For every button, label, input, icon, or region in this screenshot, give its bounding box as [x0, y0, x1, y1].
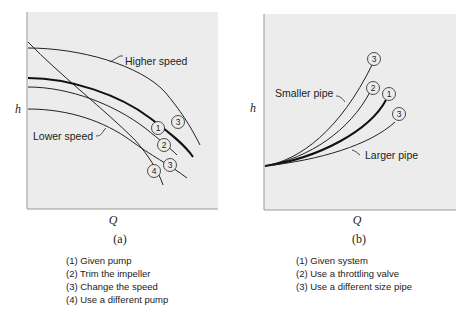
- panel-b-caption: (b): [352, 232, 366, 246]
- panel-b-x-label: Q: [353, 213, 362, 227]
- svg-text:3: 3: [372, 54, 377, 64]
- panel-a-caption: (a): [113, 232, 126, 246]
- marker-b-2: 2: [367, 82, 380, 95]
- legend-b-item: (2) Use a throttling valve: [296, 267, 412, 280]
- svg-text:3: 3: [168, 160, 173, 170]
- panel-a-y-label: h: [15, 102, 21, 116]
- marker-a-4: 4: [148, 165, 161, 178]
- legend-b-item: (3) Use a different size pipe: [296, 280, 412, 293]
- annotation-higher-speed: Higher speed: [125, 55, 188, 67]
- legend-a-item: (1) Given pump: [66, 254, 168, 267]
- panel-a-x-label: Q: [109, 213, 118, 227]
- panel-a-legend: (1) Given pump (2) Trim the impeller (3)…: [66, 254, 168, 306]
- panel-b: Smaller pipe Larger pipe 3 2 1 3 h Q (b): [250, 14, 456, 246]
- legend-a-item: (3) Change the speed: [66, 280, 168, 293]
- legend-b-item: (1) Given system: [296, 254, 412, 267]
- marker-a-3-upper: 3: [172, 116, 185, 129]
- panel-b-plot-area: [264, 14, 456, 210]
- svg-text:4: 4: [152, 166, 157, 176]
- svg-text:1: 1: [387, 89, 392, 99]
- marker-b-3-lower: 3: [393, 108, 406, 121]
- legend-a-item: (2) Trim the impeller: [66, 267, 168, 280]
- panel-a: Higher speed Lower speed 3 1 2 3 4 h Q (…: [15, 12, 218, 246]
- svg-text:3: 3: [397, 109, 402, 119]
- panel-b-y-label: h: [250, 101, 256, 115]
- legend-a-item: (4) Use a different pump: [66, 293, 168, 306]
- annotation-lower-speed: Lower speed: [33, 130, 93, 142]
- svg-text:3: 3: [176, 117, 181, 127]
- marker-b-1: 1: [383, 88, 396, 101]
- marker-a-3-lower: 3: [164, 159, 177, 172]
- marker-b-3-upper: 3: [368, 53, 381, 66]
- marker-a-2: 2: [158, 139, 171, 152]
- annotation-larger-pipe: Larger pipe: [365, 149, 418, 161]
- svg-text:2: 2: [371, 83, 376, 93]
- annotation-smaller-pipe: Smaller pipe: [275, 87, 334, 99]
- svg-text:2: 2: [162, 140, 167, 150]
- svg-text:1: 1: [156, 123, 161, 133]
- marker-a-1: 1: [152, 122, 165, 135]
- panel-b-legend: (1) Given system (2) Use a throttling va…: [296, 254, 412, 293]
